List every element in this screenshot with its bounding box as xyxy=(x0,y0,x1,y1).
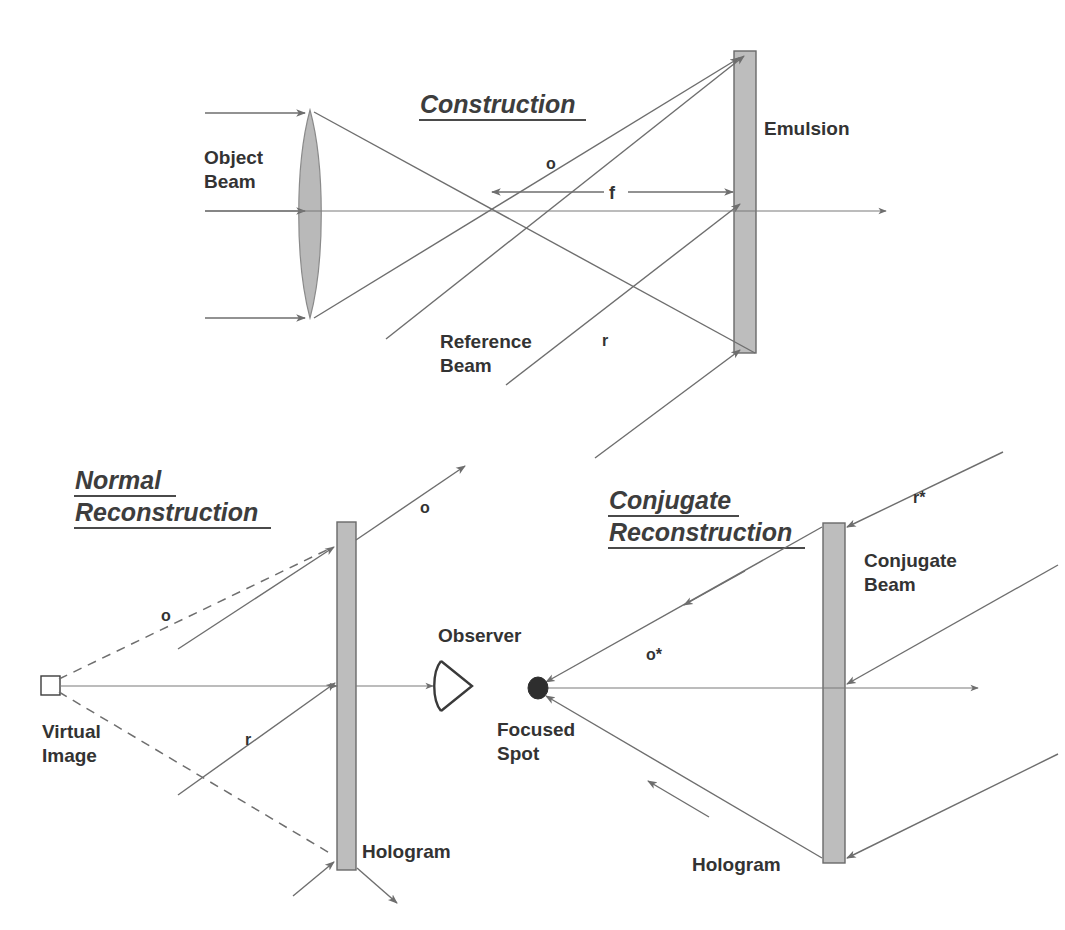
object-beam-label-line1: Object xyxy=(204,147,264,168)
virtual-image-label-line1: Virtual xyxy=(42,721,101,742)
conjugate-reference-wave-label: r* xyxy=(913,489,926,506)
object-wave-label-virtual: o xyxy=(161,607,171,624)
construction-title: Construction xyxy=(420,90,576,118)
focused-spot-label-line2: Spot xyxy=(497,743,540,764)
emulsion-plate xyxy=(734,51,756,353)
conjugate-object-wave-label: o* xyxy=(646,646,663,663)
reference-beam-label-line2: Beam xyxy=(440,355,492,376)
focused-spot-label-line1: Focused xyxy=(497,719,575,740)
normal-reconstruction-title-line2: Reconstruction xyxy=(75,498,258,526)
conjugate-beam-label-line2: Beam xyxy=(864,574,916,595)
object-beam-label-line2: Beam xyxy=(204,171,256,192)
page-background xyxy=(0,0,1065,930)
hologram-label-normal: Hologram xyxy=(362,841,451,862)
conjugate-reconstruction-title-line2: Reconstruction xyxy=(609,518,792,546)
holography-diagram: Construction Emulsion Object Beam Refer xyxy=(0,0,1065,930)
reference-beam-label-line1: Reference xyxy=(440,331,532,352)
hologram-plate-normal xyxy=(337,522,356,870)
holography-figure-svg: Construction Emulsion Object Beam Refer xyxy=(0,0,1065,930)
virtual-image-speckle xyxy=(41,676,60,695)
conjugate-beam-label-line1: Conjugate xyxy=(864,550,957,571)
object-wave-label: o xyxy=(546,155,556,172)
hologram-plate-conjugate xyxy=(823,523,845,863)
focused-spot xyxy=(528,677,548,699)
emulsion-label: Emulsion xyxy=(764,118,850,139)
hologram-label-conjugate: Hologram xyxy=(692,854,781,875)
reference-wave-label: r xyxy=(602,332,608,349)
reference-wave-label-normal: r xyxy=(245,731,251,748)
virtual-image-marker xyxy=(41,676,60,695)
object-wave-label-upper: o xyxy=(420,499,430,516)
normal-reconstruction-title-line1: Normal xyxy=(75,466,162,494)
observer-label: Observer xyxy=(438,625,522,646)
virtual-image-label-line2: Image xyxy=(42,745,97,766)
focal-length-label: f xyxy=(609,183,616,203)
construction-title-group: Construction xyxy=(419,90,586,120)
conjugate-reconstruction-title-line1: Conjugate xyxy=(609,486,731,514)
